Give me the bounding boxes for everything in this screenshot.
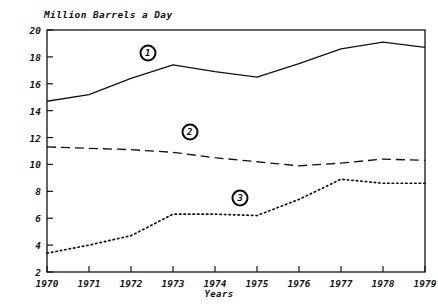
x-axis-tick-label: 1974 <box>193 278 237 289</box>
series-marker-2: 2 <box>181 124 198 141</box>
plot-frame <box>47 30 425 272</box>
x-axis-tick-label: 1978 <box>361 278 405 289</box>
y-axis-tick-label: 2 <box>15 267 41 278</box>
x-axis-label: Years <box>0 289 438 299</box>
y-axis-tick-label: 14 <box>15 105 41 116</box>
x-axis-tick-label: 1971 <box>67 278 111 289</box>
x-axis-tick-label: 1976 <box>277 278 321 289</box>
series-line-2 <box>47 147 425 166</box>
y-axis-tick-label: 10 <box>15 159 41 170</box>
x-axis-tick-label: 1970 <box>25 278 69 289</box>
y-axis-tick-label: 16 <box>15 78 41 89</box>
y-axis-tick-label: 4 <box>15 240 41 251</box>
line-chart: Million Barrels a Day 2468101214161820 1… <box>0 0 438 307</box>
x-axis-tick-label: 1973 <box>151 278 195 289</box>
x-axis-tick-label: 1977 <box>319 278 363 289</box>
series-marker-3: 3 <box>232 190 249 207</box>
x-axis-tick-label: 1972 <box>109 278 153 289</box>
x-axis-tick-label: 1979 <box>403 278 438 289</box>
y-axis-tick-label: 6 <box>15 213 41 224</box>
plot-area <box>0 0 438 307</box>
y-axis-tick-label: 20 <box>15 25 41 36</box>
x-axis-tick-label: 1975 <box>235 278 279 289</box>
series-layer <box>47 42 425 253</box>
y-axis-tick-label: 18 <box>15 51 41 62</box>
y-axis-tick-label: 8 <box>15 186 41 197</box>
axes-layer <box>47 30 425 272</box>
series-marker-1: 1 <box>139 44 156 61</box>
y-axis-tick-label: 12 <box>15 132 41 143</box>
series-line-1 <box>47 42 425 101</box>
